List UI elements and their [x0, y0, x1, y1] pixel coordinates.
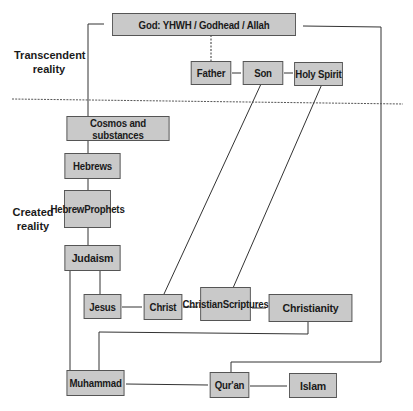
node-hebrew-prophets: Hebrew Prophets [64, 190, 111, 228]
node-text: Prophets [84, 203, 124, 215]
node-text: Scriptures [223, 298, 269, 310]
node-hebrews: Hebrews [64, 153, 120, 179]
edge-muhammad-quran [126, 384, 208, 385]
label-line: reality [33, 63, 65, 75]
reality-separator [12, 99, 403, 104]
edge-son-christ [164, 84, 261, 294]
node-christianity: Christianity [269, 294, 353, 322]
node-cosmos: Cosmos and substances [66, 116, 169, 141]
node-father: Father [191, 61, 231, 85]
transcendent-reality-label: Transcendent reality [14, 48, 84, 76]
node-text: Christian [182, 298, 222, 310]
node-quran: Qur'an [210, 372, 250, 398]
node-holy-spirit: Holy Spirit [294, 62, 343, 86]
node-muhammad: Muhammad [67, 370, 125, 396]
label-line: Transcendent [14, 49, 86, 61]
node-islam: Islam [289, 373, 337, 398]
label-line: Created [13, 206, 54, 218]
created-reality-label: Created reality [10, 205, 56, 233]
node-christ: Christ [144, 294, 183, 320]
node-god: God: YHWH / Godhead / Allah [112, 13, 296, 36]
node-son: Son [243, 61, 283, 85]
node-christian-scriptures: Christian Scriptures [200, 287, 251, 321]
node-judaism: Judaism [64, 245, 120, 271]
node-text: Hebrew [50, 203, 84, 215]
edge-christianity-muhammad [99, 321, 308, 370]
edge-god-cosmos [88, 24, 104, 116]
label-line: reality [17, 220, 49, 232]
node-jesus: Jesus [84, 294, 122, 319]
